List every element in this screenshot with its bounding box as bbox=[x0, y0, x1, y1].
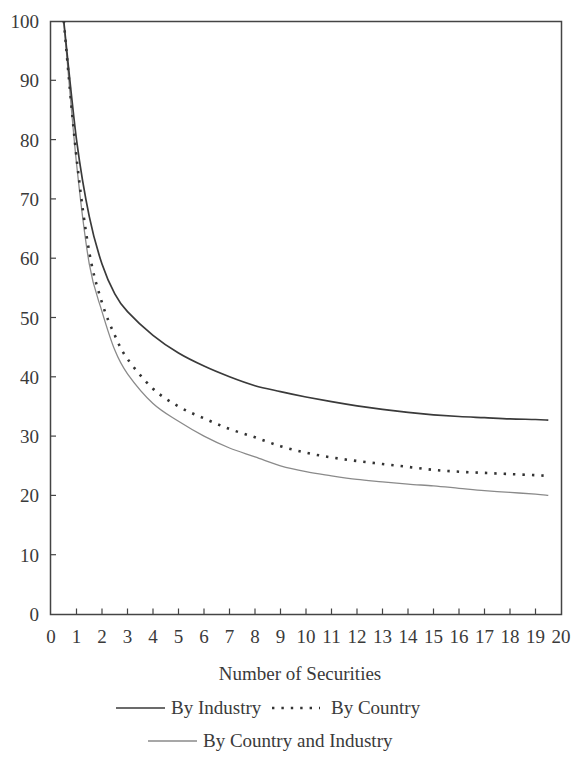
x-tick-label: 0 bbox=[46, 626, 56, 647]
x-tick-label: 4 bbox=[148, 626, 158, 647]
legend-item-industry: By Industry bbox=[116, 697, 262, 718]
series-line-by-country-and-industry bbox=[64, 21, 549, 495]
legend-label-country: By Country bbox=[331, 697, 421, 718]
x-tick-label: 17 bbox=[475, 626, 494, 647]
y-tick-label: 0 bbox=[30, 604, 40, 625]
plot-frame bbox=[51, 22, 562, 615]
x-tick-label: 8 bbox=[250, 626, 260, 647]
y-tick-label: 100 bbox=[11, 11, 40, 32]
y-tick-label: 60 bbox=[20, 248, 39, 269]
legend: By Industry By Country By Country and In… bbox=[116, 697, 421, 751]
y-tick-label: 10 bbox=[20, 545, 39, 566]
x-tick-label: 2 bbox=[97, 626, 107, 647]
x-tick-label: 13 bbox=[373, 626, 392, 647]
x-tick-label: 1 bbox=[72, 626, 82, 647]
legend-item-country-industry: By Country and Industry bbox=[148, 730, 393, 751]
x-tick-label: 19 bbox=[526, 626, 545, 647]
legend-label-industry: By Industry bbox=[171, 697, 262, 718]
line-chart: 0102030405060708090100 01234567891011121… bbox=[0, 0, 583, 764]
series-line-by-industry bbox=[64, 21, 549, 420]
y-tick-label: 70 bbox=[20, 189, 39, 210]
series-line-by-country bbox=[64, 21, 549, 476]
x-tick-label: 14 bbox=[399, 626, 419, 647]
x-tick-label: 5 bbox=[174, 626, 184, 647]
x-tick-label: 16 bbox=[450, 626, 469, 647]
y-tick-label: 90 bbox=[20, 70, 39, 91]
y-tick-label: 20 bbox=[20, 485, 39, 506]
y-tick-label: 40 bbox=[20, 367, 39, 388]
legend-label-country-industry: By Country and Industry bbox=[203, 730, 393, 751]
legend-item-country: By Country bbox=[272, 697, 421, 718]
y-tick-label: 80 bbox=[20, 130, 39, 151]
x-tick-label: 20 bbox=[552, 626, 571, 647]
x-axis-title: Number of Securities bbox=[219, 663, 382, 684]
x-tick-label: 9 bbox=[276, 626, 286, 647]
x-tick-label: 6 bbox=[199, 626, 209, 647]
x-tick-label: 7 bbox=[225, 626, 235, 647]
y-tick-label: 30 bbox=[20, 426, 39, 447]
x-tick-label: 3 bbox=[123, 626, 133, 647]
x-tick-label: 15 bbox=[424, 626, 443, 647]
series-lines bbox=[64, 21, 549, 495]
x-tick-label: 11 bbox=[322, 626, 340, 647]
y-axis: 0102030405060708090100 bbox=[11, 11, 57, 625]
x-tick-label: 18 bbox=[501, 626, 520, 647]
y-tick-label: 50 bbox=[20, 308, 39, 329]
x-tick-label: 10 bbox=[297, 626, 316, 647]
x-tick-label: 12 bbox=[348, 626, 367, 647]
